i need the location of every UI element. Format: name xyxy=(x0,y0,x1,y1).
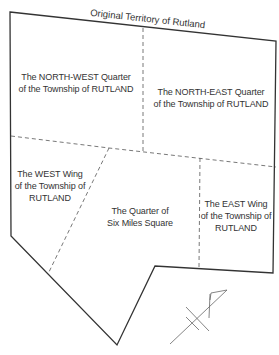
region-north-west: The NORTH-WEST Quarter of the Township o… xyxy=(18,71,134,95)
region-north-east-line2: of the Township of RUTLAND xyxy=(152,98,270,110)
region-east-wing: The EAST Wing of the Township of RUTLAND xyxy=(200,198,272,234)
region-west-wing-line3: RUTLAND xyxy=(12,192,88,204)
region-north-east-line1: The NORTH-EAST Quarter xyxy=(152,86,270,98)
region-six-miles-square: The Quarter of Six Miles Square xyxy=(98,205,182,229)
region-six-miles-line2: Six Miles Square xyxy=(98,217,182,229)
region-six-miles-line1: The Quarter of xyxy=(98,205,182,217)
region-north-west-line1: The NORTH-WEST Quarter xyxy=(18,71,134,83)
region-west-wing-line2: of the Township of xyxy=(12,180,88,192)
region-north-east: The NORTH-EAST Quarter of the Township o… xyxy=(152,86,270,110)
region-west-wing-line1: The WEST Wing xyxy=(12,168,88,180)
region-east-wing-line3: RUTLAND xyxy=(200,222,272,234)
north-arrow-icon xyxy=(170,290,227,344)
region-west-wing: The WEST Wing of the Township of RUTLAND xyxy=(12,168,88,204)
east-west-division-line xyxy=(11,136,276,167)
region-east-wing-line1: The EAST Wing xyxy=(200,198,272,210)
region-east-wing-line2: of the Township of xyxy=(200,210,272,222)
region-north-west-line2: of the Township of RUTLAND xyxy=(18,83,134,95)
